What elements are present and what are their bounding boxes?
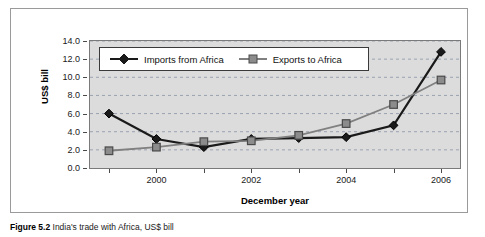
y-tick-label: 4.0 (40, 127, 87, 137)
y-tick-mark (83, 150, 87, 151)
x-tick-mark (251, 169, 252, 173)
x-tick-label: 2000 (146, 175, 166, 185)
y-axis-title: US$ bill (39, 47, 50, 127)
diamond-marker-icon (109, 53, 139, 65)
y-tick-mark (83, 168, 87, 169)
x-tick-mark (109, 169, 110, 173)
y-tick-label: 2.0 (40, 145, 87, 155)
y-tick-label: 0.0 (40, 163, 87, 173)
x-tick-mark (346, 169, 347, 173)
caption-text: India's trade with Africa, US$ bill (53, 222, 174, 232)
y-axis: 0.02.04.06.08.010.012.014.0 (47, 33, 87, 177)
caption-label: Figure 5.2 (10, 222, 50, 232)
y-tick-mark (83, 95, 87, 96)
y-tick-mark (83, 114, 87, 115)
x-tick-mark (299, 169, 300, 173)
x-tick-mark (394, 169, 395, 173)
y-tick-mark (83, 132, 87, 133)
x-axis-title: December year (89, 195, 461, 206)
legend-label-imports: Imports from Africa (144, 54, 224, 65)
y-tick-mark (83, 41, 87, 42)
x-axis: 2000200220042006 (89, 173, 463, 187)
legend-entry-exports: Exports to Africa (238, 53, 342, 65)
y-tick-mark (83, 59, 87, 60)
x-tick-mark (441, 169, 442, 173)
legend-label-exports: Exports to Africa (273, 54, 342, 65)
y-tick-label: 14.0 (40, 36, 87, 46)
chart-legend: Imports from Africa Exports to Africa (99, 47, 369, 71)
x-tick-label: 2004 (336, 175, 356, 185)
y-tick-mark (83, 77, 87, 78)
figure-caption: Figure 5.2 India's trade with Africa, US… (10, 222, 480, 232)
legend-entry-imports: Imports from Africa (109, 53, 224, 65)
x-tick-label: 2002 (241, 175, 261, 185)
x-tick-mark (156, 169, 157, 173)
square-marker-icon (238, 53, 268, 65)
figure-container: 0.02.04.06.08.010.012.014.0 US$ bill Imp… (0, 0, 485, 237)
chart-frame: 0.02.04.06.08.010.012.014.0 US$ bill Imp… (10, 8, 468, 213)
x-tick-label: 2006 (431, 175, 451, 185)
x-tick-mark (204, 169, 205, 173)
